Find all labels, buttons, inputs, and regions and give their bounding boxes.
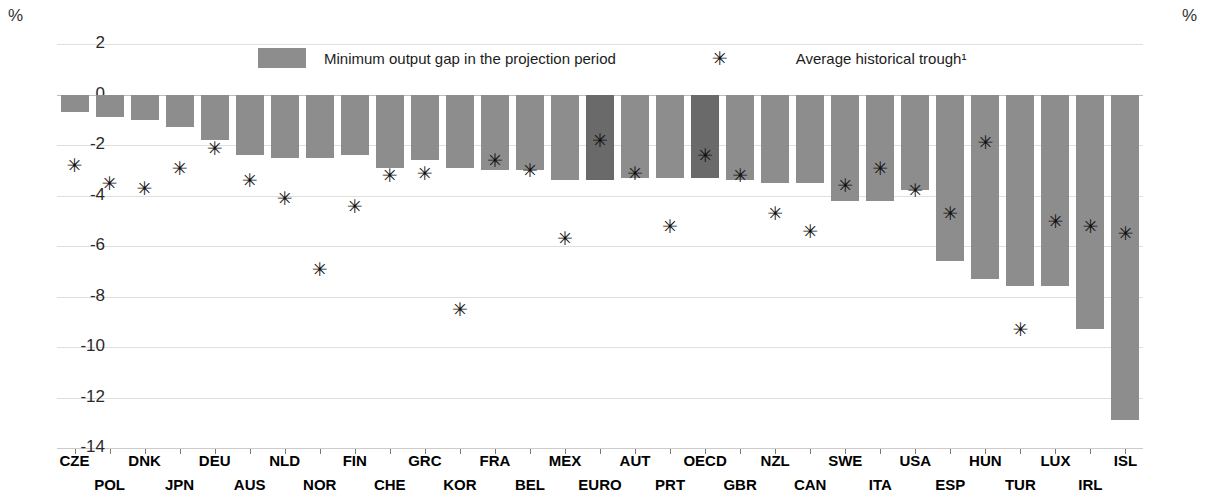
bar-hun — [971, 95, 999, 279]
trough-marker-dnk: ✳ — [137, 178, 153, 197]
x-axis-label-usa: USA — [885, 452, 945, 469]
bar-cze — [61, 95, 89, 113]
x-axis-labels: CZEPOLDNKJPNDEUAUSNLDNORFINCHEGRCKORFRAB… — [57, 450, 1143, 498]
x-axis-label-oecd: OECD — [675, 452, 735, 469]
y-axis-tick-label: 2 — [59, 33, 105, 53]
x-axis-label-gbr: GBR — [710, 476, 770, 493]
x-axis-label-jpn: JPN — [150, 476, 210, 493]
x-axis-label-pol: POL — [80, 476, 140, 493]
x-axis-label-prt: PRT — [640, 476, 700, 493]
trough-marker-jpn: ✳ — [172, 158, 188, 177]
bar-can — [796, 95, 824, 183]
bar-nzl — [761, 95, 789, 183]
x-axis-label-irl: IRL — [1060, 476, 1120, 493]
trough-marker-can: ✳ — [802, 221, 818, 240]
x-axis-label-ita: ITA — [850, 476, 910, 493]
gridline — [57, 347, 1143, 348]
bar-esp — [936, 95, 964, 262]
x-axis-label-lux: LUX — [1025, 452, 1085, 469]
trough-marker-bel: ✳ — [522, 161, 538, 180]
output-gap-chart: % % Minimum output gap in the projection… — [0, 0, 1205, 498]
bar-lux — [1041, 95, 1069, 287]
x-axis-label-fin: FIN — [325, 452, 385, 469]
trough-marker-nzl: ✳ — [767, 204, 783, 223]
trough-marker-fin: ✳ — [347, 196, 363, 215]
bar-mex — [551, 95, 579, 181]
trough-marker-deu: ✳ — [207, 138, 223, 157]
bar-fin — [341, 95, 369, 156]
bar-nld — [271, 95, 299, 158]
x-axis-label-bel: BEL — [500, 476, 560, 493]
bar-che — [376, 95, 404, 168]
y-axis-tick-label: -6 — [59, 235, 105, 255]
x-axis-label-mex: MEX — [535, 452, 595, 469]
bar-prt — [656, 95, 684, 178]
x-axis-label-hun: HUN — [955, 452, 1015, 469]
x-axis-label-grc: GRC — [395, 452, 455, 469]
trough-marker-euro: ✳ — [592, 130, 608, 149]
trough-marker-che: ✳ — [382, 166, 398, 185]
y-axis-unit-left: % — [8, 6, 23, 26]
trough-marker-cze: ✳ — [67, 156, 83, 175]
trough-marker-ita: ✳ — [872, 158, 888, 177]
trough-marker-mex: ✳ — [557, 229, 573, 248]
bar-tur — [1006, 95, 1034, 287]
gridline — [57, 398, 1143, 399]
x-axis-label-swe: SWE — [815, 452, 875, 469]
x-axis-label-dnk: DNK — [115, 452, 175, 469]
x-axis-label-esp: ESP — [920, 476, 980, 493]
y-axis-tick-label: -4 — [59, 185, 105, 205]
bar-isl — [1111, 95, 1139, 421]
bar-ita — [866, 95, 894, 201]
x-axis-label-fra: FRA — [465, 452, 525, 469]
x-axis-label-kor: KOR — [430, 476, 490, 493]
x-axis-label-deu: DEU — [185, 452, 245, 469]
bar-kor — [446, 95, 474, 168]
x-axis-label-aus: AUS — [220, 476, 280, 493]
bar-dnk — [131, 95, 159, 120]
trough-marker-esp: ✳ — [942, 204, 958, 223]
x-axis-label-aut: AUT — [605, 452, 665, 469]
trough-marker-nor: ✳ — [312, 259, 328, 278]
trough-marker-aus: ✳ — [242, 171, 258, 190]
gridline — [57, 297, 1143, 298]
trough-marker-nld: ✳ — [277, 189, 293, 208]
trough-marker-isl: ✳ — [1118, 224, 1134, 243]
trough-marker-oecd: ✳ — [697, 146, 713, 165]
bar-deu — [201, 95, 229, 140]
bar-nor — [306, 95, 334, 158]
x-axis-label-che: CHE — [360, 476, 420, 493]
x-axis-label-can: CAN — [780, 476, 840, 493]
y-axis-tick-label: -12 — [59, 387, 105, 407]
trough-marker-usa: ✳ — [907, 181, 923, 200]
bar-usa — [901, 95, 929, 191]
trough-marker-aut: ✳ — [627, 163, 643, 182]
y-axis-unit-right: % — [1182, 6, 1197, 26]
trough-marker-kor: ✳ — [452, 300, 468, 319]
bar-grc — [411, 95, 439, 161]
plot-area: 2200-2-2-4-4-6-6-8-8-10-10-12-12-14-14✳✳… — [57, 44, 1143, 448]
trough-marker-grc: ✳ — [417, 163, 433, 182]
bar-irl — [1076, 95, 1104, 330]
bar-jpn — [166, 95, 194, 128]
x-axis-label-isl: ISL — [1095, 452, 1155, 469]
x-axis-label-tur: TUR — [990, 476, 1050, 493]
x-axis-label-nzl: NZL — [745, 452, 805, 469]
trough-marker-pol: ✳ — [102, 173, 118, 192]
x-axis-label-nor: NOR — [290, 476, 350, 493]
y-axis-tick-label: -2 — [59, 134, 105, 154]
x-axis-label-nld: NLD — [255, 452, 315, 469]
trough-marker-irl: ✳ — [1082, 216, 1098, 235]
bar-aus — [236, 95, 264, 156]
trough-marker-hun: ✳ — [977, 133, 993, 152]
gridline — [57, 44, 1143, 45]
trough-marker-gbr: ✳ — [732, 166, 748, 185]
x-axis-label-cze: CZE — [45, 452, 105, 469]
x-axis-label-euro: EURO — [570, 476, 630, 493]
trough-marker-tur: ✳ — [1012, 320, 1028, 339]
trough-marker-prt: ✳ — [662, 216, 678, 235]
y-axis-tick-label: -10 — [59, 336, 105, 356]
trough-marker-lux: ✳ — [1047, 211, 1063, 230]
y-axis-tick-label: -8 — [59, 286, 105, 306]
bar-pol — [96, 95, 124, 118]
